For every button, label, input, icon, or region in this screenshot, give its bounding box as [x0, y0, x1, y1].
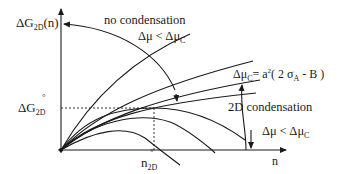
- diagram-canvas: ΔG2D(n) ΔG2D ° n2D ° n no condensation Δ…: [0, 0, 341, 174]
- dg-star-mark: °: [42, 93, 46, 102]
- critical-beta: - B ): [299, 67, 324, 81]
- arrow-to-critical: [176, 94, 177, 101]
- dg-star-sub: 2D: [36, 108, 46, 117]
- critical-sub-a: A: [294, 74, 300, 83]
- label-no-condensation: no condensation: [104, 14, 186, 27]
- label-critical: ΔμC= a2( 2 σA - B ): [233, 68, 324, 80]
- curve-4: [61, 93, 256, 150]
- y-axis-label-main: ΔG: [16, 15, 34, 30]
- label-2d-condensation: 2D condensation: [228, 101, 312, 114]
- critical-eq-a: = a: [253, 67, 268, 81]
- n-star-label: n2D: [141, 156, 157, 169]
- label-dmu-lt-bottom: Δμ < ΔμC: [262, 125, 309, 138]
- dmu-lt-bottom-main: Δμ < Δμ: [262, 124, 304, 138]
- dmu-lt-top-main: Δμ < Δμ: [138, 29, 180, 43]
- critical-sub-c: C: [247, 74, 252, 83]
- label-dmu-lt-top: Δμ < ΔμC: [138, 30, 185, 43]
- y-axis-label: ΔG2D(n): [16, 16, 59, 29]
- critical-sup-2: 2: [268, 67, 272, 75]
- dg-star-label: ΔG2D: [18, 101, 46, 114]
- dmu-lt-top-sub: C: [180, 36, 185, 45]
- curve-5: [61, 118, 215, 153]
- y-axis-label-sub: 2D: [34, 23, 44, 32]
- dg-star-main: ΔG: [18, 100, 36, 115]
- critical-dmu: Δμ: [233, 67, 247, 81]
- dmu-lt-bottom-sub: C: [304, 131, 309, 140]
- curve-3: [61, 80, 260, 150]
- y-axis-label-tail: (n): [44, 15, 59, 30]
- critical-sigma: ( 2 σ: [271, 67, 293, 81]
- n-star-sub: 2D: [148, 163, 158, 172]
- x-axis-label: n: [272, 155, 278, 167]
- n-star-main: n: [141, 155, 148, 170]
- n-star-mark: °: [150, 148, 154, 157]
